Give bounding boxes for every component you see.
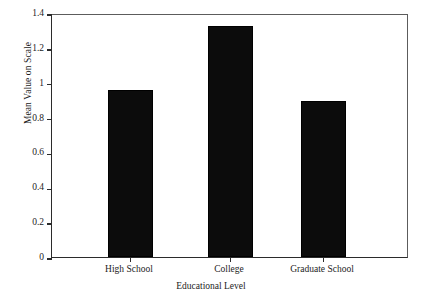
y-tick-mark — [47, 14, 52, 15]
y-tick-label: 0.2 — [4, 217, 44, 227]
y-tick-mark — [47, 49, 52, 50]
y-tick-mark — [47, 223, 52, 224]
bar-college — [208, 26, 253, 257]
y-tick-mark — [47, 189, 52, 190]
x-tick-mark-graduate-school — [323, 257, 324, 262]
y-tick-label: 0.4 — [4, 182, 44, 192]
bar-high-school — [108, 90, 153, 257]
y-tick-mark — [47, 154, 52, 155]
y-axis-title: Mean Value on Scale — [23, 3, 33, 163]
plot-area: 0 0.2 0.4 0.6 0.8 1 1.2 1.4 — [51, 14, 408, 258]
y-tick-mark — [47, 258, 52, 259]
y-tick-mark — [47, 84, 52, 85]
x-tick-mark-college — [230, 257, 231, 262]
bar-graduate-school — [301, 101, 346, 257]
y-tick-mark — [47, 119, 52, 120]
bar-chart-figure: 0 0.2 0.4 0.6 0.8 1 1.2 1.4 — [0, 0, 422, 303]
y-tick-label: 0 — [4, 252, 44, 262]
x-axis-title: Educational Level — [0, 281, 422, 291]
x-tick-mark-high-school — [130, 257, 131, 262]
x-tick-label-graduate-school: Graduate School — [262, 264, 382, 274]
